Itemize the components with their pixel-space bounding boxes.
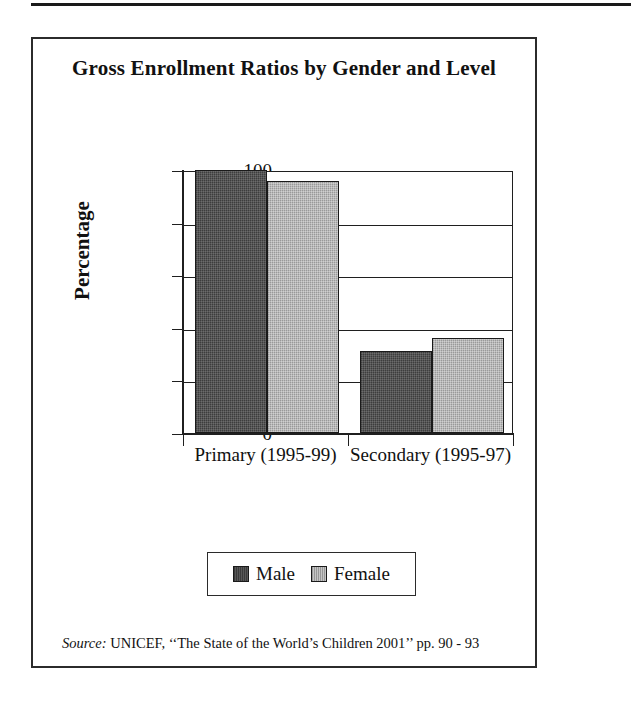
bar-female-secondary	[432, 338, 504, 433]
legend-label-male: Male	[256, 563, 295, 585]
y-axis-title: Percentage	[70, 161, 95, 341]
bar-male-secondary	[360, 351, 432, 433]
chart-legend: Male Female	[207, 552, 416, 596]
bar-female-primary	[267, 181, 339, 433]
bar-male-primary	[195, 170, 267, 433]
legend-entry-female: Female	[311, 563, 390, 585]
source-note: Source: UNICEF, ‘‘The State of the World…	[62, 634, 479, 652]
y-axis-tick-labels: 020406080100	[110, 0, 168, 712]
legend-entry-male: Male	[233, 563, 295, 585]
legend-label-female: Female	[334, 563, 390, 585]
x-axis-category-label: Secondary (1995-97)	[348, 443, 513, 467]
legend-swatch-male-icon	[233, 566, 249, 582]
plot-area	[183, 171, 513, 434]
x-axis-category-label: Primary (1995-99)	[183, 443, 348, 467]
source-citation: UNICEF, ‘‘The State of the World’s Child…	[110, 635, 479, 651]
legend-swatch-female-icon	[311, 566, 327, 582]
source-label: Source:	[62, 635, 107, 651]
x-axis-tick	[513, 435, 514, 446]
